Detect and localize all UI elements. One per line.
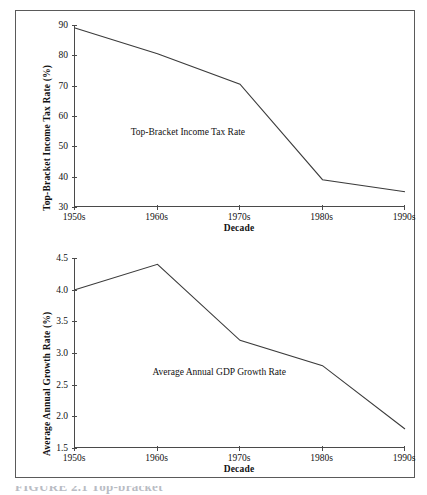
x-tick-mark: [404, 205, 405, 210]
x-tick-mark: [74, 446, 75, 451]
figure-caption-text: FIGURE 2.1 Top-bracket: [15, 486, 163, 495]
x-tick-mark: [157, 205, 158, 210]
chart-panel-top-bracket-income-tax-rate: Top-Bracket Income Tax Rate (%) Decade 3…: [16, 11, 416, 233]
y-tick-label: 4.0: [30, 285, 68, 295]
y-tick-mark: [72, 177, 77, 178]
y-tick-mark: [72, 416, 77, 417]
x-tick-label: 1960s: [145, 453, 168, 463]
y-tick-mark: [72, 258, 77, 259]
y-tick-label: 4.5: [30, 253, 68, 263]
x-tick-label: 1980s: [310, 212, 333, 222]
plot-area-bottom: [74, 258, 404, 448]
figure-frame: Top-Bracket Income Tax Rate (%) Decade 3…: [15, 10, 415, 478]
figure-root: Top-Bracket Income Tax Rate (%) Decade 3…: [0, 0, 427, 495]
x-tick-mark: [322, 446, 323, 451]
y-tick-label: 80: [30, 50, 68, 60]
y-tick-mark: [72, 55, 77, 56]
y-tick-mark: [72, 321, 77, 322]
chart-panel-average-annual-gdp-growth-rate: Average Annual Growth Rate (%) Decade 1.…: [16, 244, 416, 476]
x-tick-label: 1970s: [228, 212, 251, 222]
plot-area-top: [74, 25, 404, 207]
y-tick-mark: [72, 290, 77, 291]
data-series-line: [75, 25, 405, 207]
y-tick-label: 30: [30, 202, 68, 212]
y-tick-mark: [72, 116, 77, 117]
y-tick-label: 40: [30, 172, 68, 182]
x-tick-mark: [239, 446, 240, 451]
x-tick-mark: [404, 446, 405, 451]
x-tick-label: 1960s: [145, 212, 168, 222]
x-tick-label: 1990s: [393, 453, 416, 463]
x-tick-mark: [322, 205, 323, 210]
y-tick-label: 2.5: [30, 380, 68, 390]
y-tick-mark: [72, 146, 77, 147]
x-axis-title-bottom: Decade: [74, 464, 404, 474]
x-tick-label: 1980s: [310, 453, 333, 463]
figure-caption-clipped: FIGURE 2.1 Top-bracket: [15, 486, 215, 495]
y-tick-mark: [72, 353, 77, 354]
y-tick-label: 1.5: [30, 443, 68, 453]
x-tick-label: 1950s: [63, 212, 86, 222]
y-tick-label: 3.5: [30, 316, 68, 326]
x-tick-label: 1990s: [393, 212, 416, 222]
x-tick-label: 1950s: [63, 453, 86, 463]
x-tick-mark: [239, 205, 240, 210]
data-series-line: [75, 258, 405, 448]
y-tick-mark: [72, 385, 77, 386]
series-annotation-label: Top-Bracket Income Tax Rate: [131, 127, 245, 137]
y-tick-label: 90: [30, 20, 68, 30]
y-tick-label: 60: [30, 111, 68, 121]
x-axis-title-top: Decade: [74, 223, 404, 233]
y-tick-label: 2.0: [30, 411, 68, 421]
x-tick-mark: [157, 446, 158, 451]
x-tick-mark: [74, 205, 75, 210]
y-tick-label: 70: [30, 81, 68, 91]
x-tick-label: 1970s: [228, 453, 251, 463]
y-tick-mark: [72, 25, 77, 26]
y-tick-label: 50: [30, 141, 68, 151]
y-tick-mark: [72, 86, 77, 87]
series-annotation-label: Average Annual GDP Growth Rate: [152, 367, 286, 377]
y-tick-label: 3.0: [30, 348, 68, 358]
